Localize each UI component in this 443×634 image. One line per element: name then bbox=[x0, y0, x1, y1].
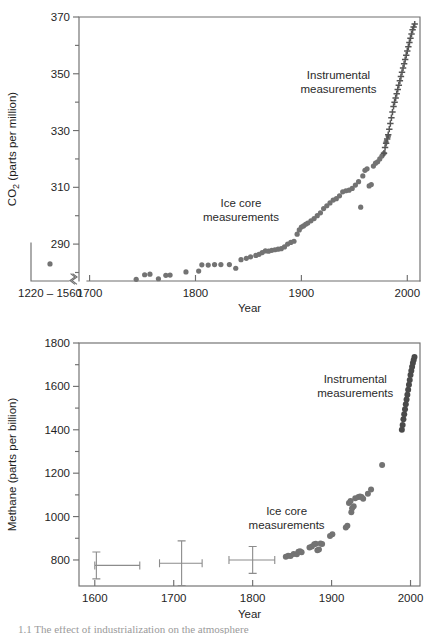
data-point bbox=[199, 262, 204, 267]
data-point bbox=[389, 109, 395, 115]
data-point bbox=[344, 523, 350, 529]
co2-y-tick-label: 290 bbox=[51, 238, 70, 250]
data-point bbox=[391, 99, 397, 105]
methane-y-tick-label: 1600 bbox=[44, 380, 70, 392]
data-point bbox=[364, 166, 369, 171]
methane-x-axis-title: Year bbox=[238, 608, 261, 620]
data-point bbox=[238, 257, 243, 262]
data-point bbox=[399, 69, 405, 75]
figure-canvas: 1220 – 156029031033035037017001800190020… bbox=[0, 0, 443, 634]
data-point bbox=[400, 416, 406, 422]
data-point bbox=[388, 115, 394, 121]
data-point bbox=[291, 239, 296, 244]
error-bar-horizontal bbox=[229, 556, 275, 564]
data-point bbox=[394, 90, 400, 96]
data-point bbox=[396, 82, 402, 88]
data-point bbox=[134, 277, 139, 282]
co2-inset-tick-label: 1220 – 1560 bbox=[18, 287, 82, 299]
co2-panel: 1220 – 156029031033035037017001800190020… bbox=[6, 11, 420, 314]
methane-x-tick-label: 1600 bbox=[82, 592, 108, 604]
data-point bbox=[369, 182, 374, 187]
data-point bbox=[156, 276, 161, 281]
data-point bbox=[233, 266, 238, 271]
data-point bbox=[390, 103, 396, 109]
data-point bbox=[356, 179, 361, 184]
methane-y-tick-label: 1800 bbox=[44, 337, 70, 349]
methane-y-tick-label: 1000 bbox=[44, 511, 70, 523]
data-point bbox=[319, 541, 325, 547]
data-point bbox=[142, 272, 147, 277]
co2-inset-data-point bbox=[47, 261, 52, 266]
data-point bbox=[360, 173, 365, 178]
co2-x-tick-label: 1700 bbox=[77, 287, 103, 299]
data-point bbox=[408, 31, 414, 37]
data-point bbox=[218, 262, 223, 267]
data-point bbox=[212, 262, 217, 267]
data-point bbox=[382, 144, 388, 150]
co2-y-tick-label: 370 bbox=[51, 11, 70, 23]
co2-x-tick-label: 1900 bbox=[289, 287, 315, 299]
data-point bbox=[403, 52, 409, 58]
co2-y-tick-label: 350 bbox=[51, 68, 70, 80]
data-point bbox=[392, 95, 398, 101]
error-bar-horizontal bbox=[95, 561, 140, 569]
data-point bbox=[405, 44, 411, 50]
co2-series-circle bbox=[134, 134, 391, 282]
methane-annotation-line1: Ice core bbox=[266, 505, 307, 517]
methane-annotation-line2: measurements bbox=[249, 519, 325, 531]
data-point bbox=[411, 354, 417, 360]
co2-y-tick-label: 330 bbox=[51, 125, 70, 137]
co2-annotation-line2: measurements bbox=[203, 211, 279, 223]
co2-y-axis-title-pre: CO bbox=[6, 189, 18, 206]
methane-y-tick-label: 800 bbox=[51, 554, 70, 566]
co2-plot-frame bbox=[79, 17, 420, 281]
methane-series bbox=[399, 354, 418, 433]
data-point bbox=[318, 210, 323, 215]
figure-caption-partial: 1.1 The effect of industrialization on t… bbox=[18, 623, 249, 634]
data-point bbox=[397, 78, 403, 84]
methane-y-tick-label: 1400 bbox=[44, 424, 70, 436]
data-point bbox=[147, 272, 152, 277]
data-point bbox=[402, 56, 408, 62]
data-point bbox=[351, 503, 357, 509]
error-bar-horizontal bbox=[160, 559, 203, 567]
methane-x-tick-label: 1700 bbox=[161, 592, 187, 604]
methane-annotation-line1: Instrumental bbox=[324, 373, 387, 385]
methane-x-tick-label: 1800 bbox=[240, 592, 266, 604]
data-point bbox=[167, 272, 172, 277]
methane-y-tick-label: 1200 bbox=[44, 467, 70, 479]
co2-annotation-line1: Ice core bbox=[221, 197, 262, 209]
data-point bbox=[329, 531, 335, 537]
data-point bbox=[401, 61, 407, 67]
data-point bbox=[407, 35, 413, 41]
data-point bbox=[368, 486, 374, 492]
co2-y-axis-title: CO2 (parts per million) bbox=[6, 92, 21, 206]
data-point bbox=[395, 86, 401, 92]
methane-x-tick-label: 2000 bbox=[398, 592, 424, 604]
methane-x-tick-label: 1900 bbox=[319, 592, 345, 604]
co2-y-axis-title-post: (parts per million) bbox=[6, 92, 18, 184]
co2-y-tick-label: 310 bbox=[51, 181, 70, 193]
co2-annotation-line2: measurements bbox=[300, 83, 376, 95]
data-point bbox=[299, 549, 305, 555]
data-point bbox=[183, 269, 188, 274]
data-point bbox=[248, 254, 253, 259]
data-point bbox=[400, 65, 406, 71]
data-point bbox=[360, 496, 366, 502]
methane-panel: 8001000120014001600180016001700180019002… bbox=[6, 337, 423, 620]
data-point bbox=[406, 39, 412, 45]
co2-x-tick-label: 2000 bbox=[394, 287, 420, 299]
climate-figure: 1220 – 156029031033035037017001800190020… bbox=[0, 0, 443, 634]
data-point bbox=[206, 263, 211, 268]
co2-x-tick-label: 1800 bbox=[183, 287, 209, 299]
co2-x-axis-title: Year bbox=[238, 302, 261, 314]
co2-annotation-line1: Instrumental bbox=[307, 69, 370, 81]
data-point bbox=[398, 73, 404, 79]
data-point bbox=[379, 462, 385, 468]
data-point bbox=[400, 422, 406, 428]
methane-y-axis-title: Methane (parts per billion) bbox=[6, 398, 18, 532]
data-point bbox=[196, 268, 201, 273]
data-point bbox=[316, 547, 322, 553]
data-point bbox=[404, 48, 410, 54]
methane-error-bar bbox=[229, 547, 275, 574]
